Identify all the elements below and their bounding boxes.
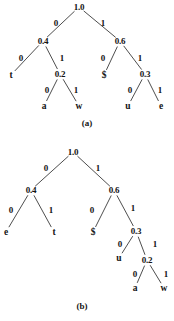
tree-node-probability: 0.6 — [115, 37, 126, 46]
tree-edge — [122, 237, 132, 253]
tree-edge — [35, 156, 68, 186]
tree-node-probability: 1.0 — [74, 3, 85, 12]
edge-bit-label: 1 — [101, 19, 106, 28]
tree-edge — [107, 47, 118, 70]
tree-node-probability: 0.4 — [38, 37, 49, 46]
edge-bit-label: 0 — [90, 206, 95, 215]
edge-bit-label: 0 — [19, 54, 24, 63]
tree-leaf-symbol: $ — [91, 228, 96, 237]
tree-node-probability: 0.3 — [140, 70, 151, 79]
tree-node-probability: 0.4 — [26, 186, 37, 195]
panel-caption-b: (b) — [77, 301, 88, 311]
tree-edge — [150, 266, 161, 283]
tree-leaf-symbol: w — [76, 102, 83, 111]
edge-bit-label: 1 — [158, 86, 163, 95]
tree-node-probability: 0.2 — [142, 256, 153, 265]
edge-bit-label: 1 — [49, 206, 54, 215]
edge-bit-label: 0 — [44, 164, 49, 173]
tree-edge — [137, 266, 144, 283]
edge-bit-label: 0 — [133, 270, 138, 279]
tree-leaf-symbol: u — [125, 102, 130, 111]
tree-edge — [84, 11, 115, 37]
edge-bit-label: 0 — [9, 206, 14, 215]
tree-edge — [148, 80, 158, 101]
tree-leaf-symbol: a — [133, 284, 138, 293]
edge-bit-label: 0 — [128, 86, 133, 95]
tree-edge — [78, 156, 110, 186]
tree-leaf-symbol: t — [52, 228, 55, 237]
edge-bit-label: 1 — [153, 240, 158, 249]
tree-edge — [46, 47, 57, 69]
panel-caption-a: (a) — [82, 118, 93, 128]
edge-bit-label: 1 — [164, 270, 169, 279]
edge-bit-label: 0 — [118, 240, 123, 249]
tree-node-probability: 0.6 — [109, 186, 120, 195]
tree-figure: 01010101011.00.40.6t0.2$0.3awue(a)010101… — [0, 0, 174, 321]
edge-bit-label: 1 — [96, 164, 101, 173]
tree-leaf-symbol: t — [9, 71, 12, 80]
tree-node-probability: 1.0 — [68, 148, 79, 157]
tree-node-probability: 0.3 — [131, 227, 142, 236]
tree-leaf-symbol: e — [4, 228, 8, 237]
tree-edge — [96, 196, 111, 227]
tree-edge — [138, 237, 145, 254]
tree-leaf-symbol: a — [42, 102, 47, 111]
edge-bit-label: 1 — [138, 54, 143, 63]
tree-edge — [47, 11, 74, 36]
tree-edges-canvas — [0, 0, 174, 321]
tree-leaf-symbol: e — [159, 102, 163, 111]
tree-leaf-symbol: w — [161, 284, 168, 293]
tree-node-probability: 0.2 — [55, 70, 66, 79]
edge-bit-label: 1 — [131, 204, 136, 213]
tree-leaf-symbol: $ — [102, 71, 107, 80]
edge-bit-label: 0 — [101, 54, 106, 63]
edge-bit-label: 0 — [45, 86, 50, 95]
edge-bit-label: 1 — [60, 54, 65, 63]
edge-bit-label: 0 — [54, 19, 59, 28]
tree-leaf-symbol: u — [116, 254, 121, 263]
edge-bit-label: 1 — [74, 86, 79, 95]
